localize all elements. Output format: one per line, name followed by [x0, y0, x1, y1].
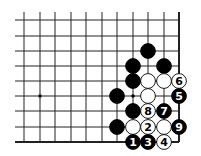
black-stone	[126, 104, 141, 119]
black-stone: 9	[172, 120, 187, 135]
move-number: 4	[160, 136, 168, 149]
black-stone	[126, 59, 141, 74]
move-number: 6	[175, 75, 183, 88]
move-number: 5	[175, 90, 183, 103]
move-number: 1	[129, 136, 137, 149]
black-stone	[157, 59, 172, 74]
white-stone	[141, 74, 156, 89]
white-stone: 4	[157, 135, 172, 150]
black-stone	[141, 44, 156, 59]
move-number: 7	[160, 105, 168, 118]
black-stone: 3	[141, 135, 156, 150]
white-stone	[157, 74, 172, 89]
move-number: 9	[175, 121, 183, 134]
move-number: 8	[144, 105, 152, 118]
star-point-icon	[131, 94, 135, 98]
go-board: 658729134	[0, 0, 201, 156]
black-stone	[110, 89, 125, 104]
move-number: 3	[144, 136, 152, 149]
move-number: 2	[144, 121, 152, 134]
white-stone: 8	[141, 104, 156, 119]
white-stone	[141, 89, 156, 104]
star-point-icon	[38, 94, 42, 98]
black-stone	[126, 74, 141, 89]
black-stone: 1	[126, 135, 141, 150]
white-stone: 2	[141, 120, 156, 135]
white-stone	[126, 120, 141, 135]
white-stone: 6	[172, 74, 187, 89]
black-stone: 7	[157, 104, 172, 119]
black-stone	[110, 120, 125, 135]
white-stone	[157, 120, 172, 135]
black-stone: 5	[172, 89, 187, 104]
